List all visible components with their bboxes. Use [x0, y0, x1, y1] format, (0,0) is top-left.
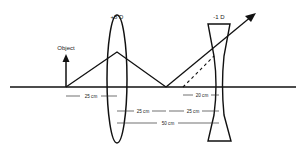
concave-lens — [208, 24, 231, 141]
measurement-label: 25 cm — [187, 109, 200, 114]
convex-lens — [107, 15, 127, 143]
optics-diagram: Object +8 D -1 D 25 cm 20 cm 25 cm 25 cm… — [0, 0, 296, 157]
ray-through-convex — [66, 52, 166, 87]
object-label: Object — [57, 45, 75, 51]
measurement-label: 25 cm — [137, 109, 150, 114]
measurement-label: 25 cm — [85, 94, 98, 99]
convex-lens-power-label: +8 D — [111, 14, 125, 20]
diagram-canvas: Object +8 D -1 D 25 cm 20 cm 25 cm 25 cm… — [0, 0, 296, 157]
measurement-label: 50 cm — [162, 121, 175, 126]
measurement-label: 20 cm — [196, 93, 209, 98]
object-arrow-icon — [63, 54, 70, 87]
concave-lens-power-label: -1 D — [213, 14, 225, 20]
